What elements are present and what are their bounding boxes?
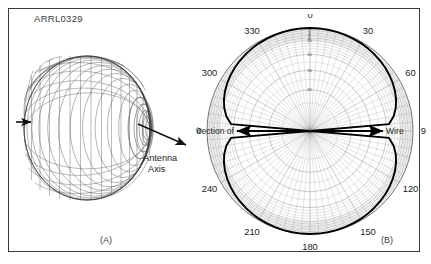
angle-tick-30: 30 [363,25,373,36]
angle-tick-90: 90 [421,125,426,136]
angle-tick-210: 210 [244,226,260,237]
radial-tick-50: 50 [307,129,312,134]
direction-of-label: Direction of [196,126,235,136]
figure-container: ARRL0329 [0,0,431,264]
angle-tick-240: 240 [202,183,218,194]
antenna-axis-arrow [138,124,186,145]
angle-tick-60: 60 [405,67,415,78]
radial-tick-40: 40 [307,87,312,92]
panel-b-polar-plot: 0306090120150180210240270300330246810203… [196,14,426,250]
angle-tick-150: 150 [360,226,376,237]
radial-tick-20: 20 [307,52,312,57]
polar-plot-svg: 0306090120150180210240270300330246810203… [196,14,426,250]
angle-tick-0: 0 [307,14,312,20]
angle-tick-300: 300 [202,67,218,78]
wire-label: Wire [386,126,404,136]
panel-a-3d-pattern: Antenna Axis [14,40,204,220]
radial-tick-10: 10 [307,38,312,43]
angle-tick-330: 330 [244,25,260,36]
antenna-axis-label-line1: Antenna [143,153,178,163]
panel-b-caption: (B) [381,235,393,245]
angle-tick-180: 180 [302,241,318,250]
antenna-axis-label-line2: Axis [148,164,166,174]
radial-tick-30: 30 [307,68,312,73]
figure-id-label: ARRL0329 [34,13,83,24]
torus-pattern-svg: Antenna Axis [14,40,204,220]
panel-a-caption: (A) [100,235,112,245]
angle-tick-120: 120 [403,183,419,194]
torus-grid-h [24,62,150,193]
